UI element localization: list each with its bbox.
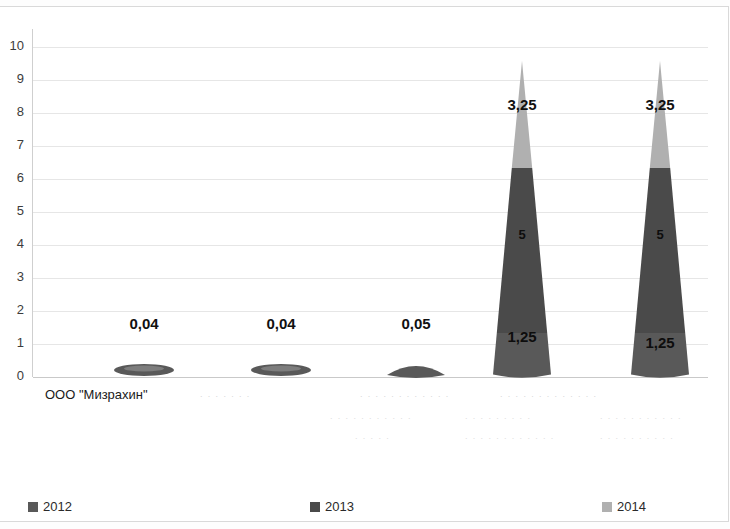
- cone-group-1[interactable]: [113, 363, 175, 377]
- faded-text-d: . . . . . . . . . . .: [330, 411, 412, 421]
- y-tick-8: 8: [0, 104, 24, 119]
- cone-shape-3: [385, 359, 447, 377]
- gridline-8: [33, 113, 708, 114]
- data-label-group3: 0,05: [401, 315, 430, 332]
- legend-swatch-2012: [28, 502, 38, 512]
- cone-group-3[interactable]: [385, 359, 447, 377]
- y-tick-7: 7: [0, 137, 24, 152]
- gridline-5: [33, 212, 708, 213]
- legend-item-2013[interactable]: 2013: [310, 499, 354, 514]
- data-label-group1: 0,04: [129, 315, 158, 332]
- faded-text-a: . . . . . . .: [200, 389, 251, 399]
- legend-label-2012: 2012: [43, 499, 72, 514]
- y-tick-5: 5: [0, 203, 24, 218]
- faded-text-e: . . . . . . . . .: [465, 411, 531, 421]
- faded-text-i: . . . . . . . . . .: [600, 431, 674, 441]
- data-label-group5-2012: 1,25: [645, 334, 674, 351]
- cone-shape-2: [250, 363, 312, 377]
- chart-legend: 2012 2013 2014: [0, 495, 730, 525]
- gridline-3: [33, 278, 708, 279]
- y-tick-6: 6: [0, 170, 24, 185]
- legend-item-2014[interactable]: 2014: [602, 499, 646, 514]
- gridline-10: [33, 47, 708, 48]
- plot-inner: 0,04 0,04 0,05 1,25 5 3,25 1,25 5 3,25: [33, 47, 708, 377]
- faded-text-c: . . . . . . . . . . . . .: [500, 389, 598, 399]
- data-label-group4-2014: 3,25: [507, 96, 536, 113]
- cone-group-2[interactable]: [250, 363, 312, 377]
- chart-screenshot: Al, мг/дм3: [0, 0, 730, 529]
- gridline-7: [33, 146, 708, 147]
- y-tick-4: 4: [0, 236, 24, 251]
- gridline-2: [33, 311, 708, 312]
- data-label-group4-2012: 1,25: [507, 328, 536, 345]
- plot-area: 0,04 0,04 0,05 1,25 5 3,25 1,25 5 3,25: [32, 29, 708, 377]
- data-label-group5-2014: 3,25: [645, 96, 674, 113]
- data-label-group2: 0,04: [266, 315, 295, 332]
- y-tick-9: 9: [0, 71, 24, 86]
- legend-label-2014: 2014: [617, 499, 646, 514]
- data-label-group5-2013: 5: [656, 227, 663, 242]
- y-tick-10: 10: [0, 38, 24, 53]
- faded-text-b: . . . . . . . . . . . .: [360, 389, 450, 399]
- faded-text-f: . . . . . . . . . . .: [600, 411, 682, 421]
- faded-text-h: . . . . . . . . . . . .: [465, 431, 555, 441]
- y-tick-2: 2: [0, 302, 24, 317]
- gridline-0: [33, 377, 708, 378]
- legend-label-2013: 2013: [325, 499, 354, 514]
- faded-text-g: . . . . .: [355, 431, 390, 441]
- gridline-1: [33, 344, 708, 345]
- y-tick-0: 0: [0, 368, 24, 383]
- gridline-6: [33, 179, 708, 180]
- chart-frame: Al, мг/дм3: [0, 6, 729, 522]
- gridline-9: [33, 80, 708, 81]
- data-label-group4-2013: 5: [518, 227, 525, 242]
- legend-swatch-2013: [310, 502, 320, 512]
- gridline-4: [33, 245, 708, 246]
- category-label-1: ООО "Мизрахин": [45, 387, 148, 402]
- y-tick-1: 1: [0, 335, 24, 350]
- legend-swatch-2014: [602, 502, 612, 512]
- cone-shape-1: [113, 363, 175, 377]
- y-tick-3: 3: [0, 269, 24, 284]
- legend-item-2012[interactable]: 2012: [28, 499, 72, 514]
